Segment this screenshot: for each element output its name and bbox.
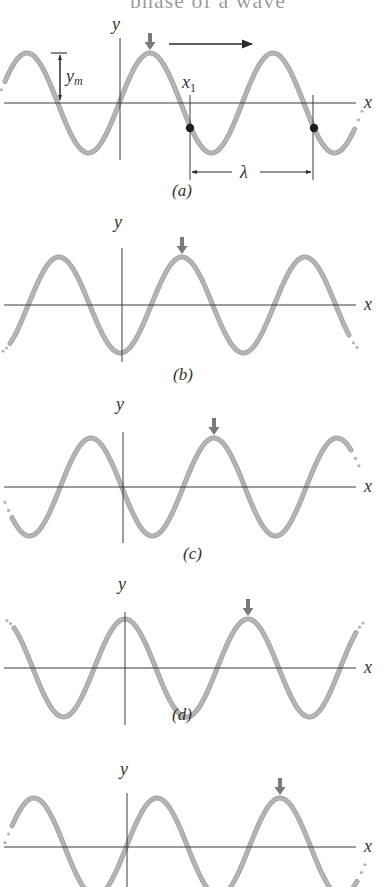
wave-curve: [12, 798, 357, 887]
x-axis-label: x: [363, 294, 372, 314]
crest-marker-arrow-icon: [145, 42, 156, 50]
wave-continuation-dot: [9, 622, 12, 625]
panel-e: xy: [3, 759, 372, 887]
wave-continuation-dot: [7, 832, 10, 835]
panel-a: xy(a): [0, 14, 372, 200]
point-x1-plus-lambda-dot: [310, 124, 318, 132]
wave-continuation-dot: [361, 621, 364, 624]
wave-continuation-dot: [1, 350, 4, 353]
crest-marker-arrow-shaft: [212, 418, 216, 428]
crest-marker-arrow-shaft: [246, 599, 250, 609]
y-axis-label: y: [110, 14, 120, 34]
wave-continuation-dot: [5, 346, 8, 349]
x-axis-label: x: [363, 836, 372, 856]
amplitude-label: ym: [64, 66, 83, 88]
cut-off-heading: phase of a wave: [130, 0, 387, 8]
crest-marker-arrow-icon: [209, 427, 220, 435]
panel-c: xy(c): [3, 394, 372, 563]
x-axis-label: x: [363, 657, 372, 677]
wave-continuation-dot: [3, 841, 6, 844]
wave-continuation-dot: [0, 88, 3, 91]
crest-marker-arrow-icon: [243, 608, 254, 616]
panel-caption: (d): [172, 705, 192, 724]
point-x1-dot: [186, 124, 194, 132]
panel-d: xy(d): [4, 574, 372, 725]
crest-marker-arrow-shaft: [180, 237, 184, 247]
x-axis-label: x: [363, 476, 372, 496]
wavelength-label: λ: [239, 162, 248, 182]
wave-continuation-dot: [358, 626, 361, 629]
wave-continuation-dot: [355, 346, 358, 349]
y-axis-label: y: [118, 759, 128, 779]
crest-marker-arrow-shaft: [278, 778, 282, 788]
panel-caption: (b): [173, 365, 193, 384]
crest-marker-arrow-icon: [275, 787, 286, 795]
wave-continuation-dot: [357, 464, 360, 467]
wave-continuation-dot: [357, 118, 360, 121]
x-axis-label: x: [363, 92, 372, 112]
wave-continuation-dot: [360, 871, 363, 874]
wave-continuation-dot: [3, 501, 6, 504]
wave-continuation-dot: [5, 619, 8, 622]
x1-label: x1: [181, 72, 196, 95]
y-axis-label: y: [112, 212, 122, 232]
wave-continuation-dot: [354, 457, 357, 460]
wave-diagram-svg: xy(a)xy(b)xy(c)xy(d)xy ym x1 λ: [0, 0, 387, 887]
y-axis-label: y: [114, 394, 124, 414]
crest-marker-arrow-icon: [177, 246, 188, 254]
wave-continuation-dot: [363, 863, 366, 866]
wave-figure: phase of a wave xy(a)xy(b)xy(c)xy(d)xy y…: [0, 0, 387, 887]
wave-continuation-dot: [7, 509, 10, 512]
panel-caption: (c): [183, 544, 202, 563]
wave-continuation-dot: [352, 341, 355, 344]
panel-caption: (a): [172, 181, 192, 200]
panel-b: xy(b): [1, 212, 372, 384]
y-axis-label: y: [116, 574, 126, 594]
crest-marker-arrow-shaft: [148, 33, 152, 43]
